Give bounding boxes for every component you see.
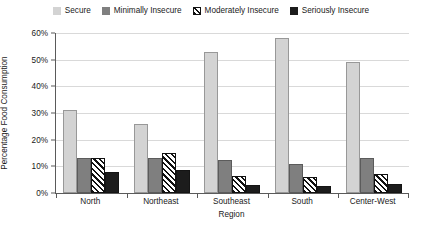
bar-center-west-secure [346,62,360,193]
legend-swatch-seriously-insecure [290,7,298,15]
y-axis-ticks: 0%10%20%30%40%50%60% [0,33,55,193]
y-tick-label: 40% [32,82,48,91]
bar-north-seriously-insecure [105,172,119,193]
bar-northeast-moderately-insecure [162,153,176,193]
bar-north-minimally-insecure [77,158,91,193]
x-tick-label-south: South [267,197,338,206]
bar-south-minimally-insecure [289,164,303,193]
bar-northeast-secure [134,124,148,193]
legend-item-seriously-insecure: Seriously Insecure [290,6,369,15]
bar-group-center-west [338,33,409,193]
y-tick-label: 30% [32,109,48,118]
bar-southeast-minimally-insecure [218,160,232,193]
x-axis-labels: NorthNortheastSoutheastSouthCenter-West [55,197,408,206]
bar-north-secure [63,110,77,193]
bar-south-secure [275,38,289,193]
legend-swatch-moderately-insecure [193,7,201,15]
bar-group-northeast [127,33,198,193]
legend-label-moderately-insecure: Moderately Insecure [205,6,279,15]
x-tick-label-northeast: Northeast [126,197,197,206]
legend-swatch-secure [53,7,61,15]
y-tick-label: 20% [32,135,48,144]
legend-label-seriously-insecure: Seriously Insecure [302,6,369,15]
bar-groups [56,33,409,193]
x-tick-label-north: North [55,197,126,206]
bar-south-moderately-insecure [303,177,317,193]
x-tick-label-center-west: Center-West [337,197,408,206]
y-tick-label: 10% [32,162,48,171]
plot-area [55,33,409,194]
bar-northeast-seriously-insecure [176,170,190,193]
bar-southeast-secure [204,52,218,193]
legend-label-minimally-insecure: Minimally Insecure [114,6,182,15]
bar-group-south [268,33,339,193]
x-tick-label-southeast: Southeast [196,197,267,206]
bar-chart: Secure Minimally Insecure Moderately Ins… [0,0,422,235]
legend-item-moderately-insecure: Moderately Insecure [193,6,279,15]
bar-center-west-moderately-insecure [374,174,388,193]
legend-item-secure: Secure [53,6,91,15]
bar-north-moderately-insecure [91,158,105,193]
y-tick-label: 50% [32,55,48,64]
bar-center-west-minimally-insecure [360,158,374,193]
bar-southeast-moderately-insecure [232,176,246,193]
legend-swatch-minimally-insecure [102,7,110,15]
y-tick-label: 0% [36,189,48,198]
bar-group-north [56,33,127,193]
bar-center-west-seriously-insecure [388,184,402,193]
chart-legend: Secure Minimally Insecure Moderately Ins… [0,6,422,15]
y-tick-label: 60% [32,29,48,38]
x-axis-title: Region [55,210,408,219]
bar-south-seriously-insecure [317,186,331,193]
bar-group-southeast [197,33,268,193]
bar-northeast-minimally-insecure [148,158,162,193]
legend-label-secure: Secure [65,6,91,15]
x-tick-mark [408,194,409,198]
legend-item-minimally-insecure: Minimally Insecure [102,6,182,15]
bar-southeast-seriously-insecure [246,185,260,193]
